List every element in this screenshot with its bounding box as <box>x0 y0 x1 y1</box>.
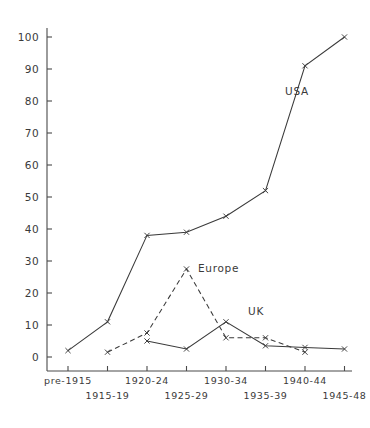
data-point-marker <box>105 319 110 324</box>
x-axis: pre-19151915-191920-241925-291930-341935… <box>44 366 366 401</box>
data-point-marker <box>342 34 347 39</box>
x-axis-tick-label: 1930-34 <box>204 375 248 386</box>
series-labels: USAEuropeUK <box>198 85 309 317</box>
series-label-usa: USA <box>285 85 309 97</box>
y-axis-tick-label: 80 <box>25 95 39 107</box>
y-axis-tick-label: 90 <box>25 63 39 75</box>
data-point-marker <box>302 350 307 355</box>
series-label-uk: UK <box>248 305 264 317</box>
x-axis-tick-label: pre-1915 <box>44 375 92 386</box>
x-axis-tick-label: 1925-29 <box>165 390 209 401</box>
data-point-marker <box>302 63 307 68</box>
series-line-uk <box>147 322 345 349</box>
y-axis-tick-label: 20 <box>25 287 39 299</box>
line-chart: 0102030405060708090100 pre-19151915-1919… <box>0 0 370 428</box>
series-label-europe: Europe <box>198 262 239 274</box>
data-point-marker <box>223 335 228 340</box>
chart-container: 0102030405060708090100 pre-19151915-1919… <box>0 0 370 428</box>
y-axis-tick-label: 70 <box>25 127 39 139</box>
series-line-europe <box>108 269 306 352</box>
y-axis: 0102030405060708090100 <box>18 28 52 371</box>
x-axis-tick-label: 1920-24 <box>125 375 169 386</box>
data-point-marker <box>105 350 110 355</box>
y-axis-tick-label: 30 <box>25 255 39 267</box>
x-axis-tick-label: 1915-19 <box>86 390 130 401</box>
y-axis-tick-label: 50 <box>25 191 39 203</box>
y-axis-tick-label: 10 <box>25 319 39 331</box>
data-point-marker <box>223 319 228 324</box>
data-point-marker <box>65 348 70 353</box>
y-axis-tick-label: 40 <box>25 223 39 235</box>
data-point-marker <box>184 266 189 271</box>
y-axis-tick-label: 0 <box>32 351 39 363</box>
y-axis-tick-label: 100 <box>18 31 39 43</box>
x-axis-tick-label: 1935-39 <box>244 390 288 401</box>
y-axis-tick-label: 60 <box>25 159 39 171</box>
x-axis-tick-label: 1940-44 <box>283 375 327 386</box>
x-axis-tick-label: 1945-48 <box>323 390 367 401</box>
data-point-marker <box>223 214 228 219</box>
data-point-marker <box>263 188 268 193</box>
series-layer <box>65 34 347 354</box>
data-point-marker <box>144 330 149 335</box>
